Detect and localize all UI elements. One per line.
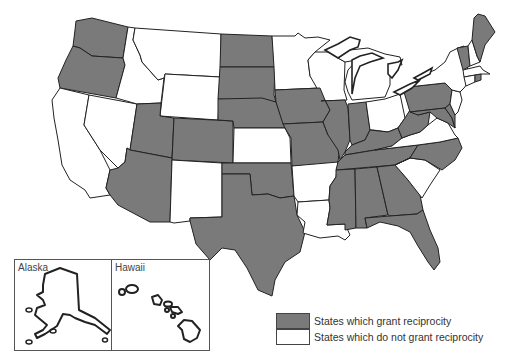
hawaii-inset: Hawaii <box>111 259 210 351</box>
legend-label-no-grant: States which do not grant reciprocity <box>314 331 483 343</box>
state-north-dakota <box>220 34 275 67</box>
state-connecticut <box>464 75 475 86</box>
state-kansas <box>233 128 291 163</box>
state-south-dakota <box>218 67 276 102</box>
legend-label-grant: States which grant reciprocity <box>314 315 451 327</box>
hawaii-shape <box>112 260 209 350</box>
alaska-shape <box>15 260 113 350</box>
legend-swatch-grant <box>276 313 310 329</box>
legend-swatch-no-grant <box>276 329 310 345</box>
state-rhode-island <box>475 74 481 82</box>
alaska-inset: Alaska <box>14 259 114 351</box>
state-colorado <box>172 118 233 163</box>
state-florida <box>365 210 440 270</box>
legend-item-grant: States which grant reciprocity <box>276 313 483 329</box>
state-wyoming <box>160 74 220 120</box>
legend: States which grant reciprocity States wh… <box>276 313 483 345</box>
state-new-mexico <box>170 160 222 223</box>
state-iowa <box>275 88 330 124</box>
legend-item-no-grant: States which do not grant reciprocity <box>276 329 483 345</box>
